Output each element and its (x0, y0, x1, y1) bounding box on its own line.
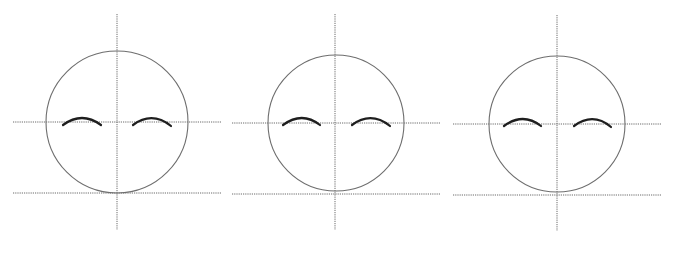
face-panel-1 (13, 14, 221, 230)
right-eyebrow (574, 119, 611, 127)
face-panel-2 (232, 14, 441, 230)
face-guide-diagram (0, 0, 673, 263)
right-eyebrow (352, 118, 390, 126)
left-eyebrow (283, 118, 320, 125)
left-eyebrow (504, 119, 541, 126)
face-panel-3 (453, 15, 661, 231)
